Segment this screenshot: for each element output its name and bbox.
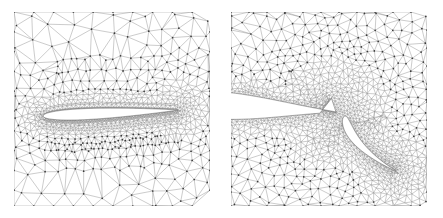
left-panel-airfoil-global-mesh xyxy=(14,12,210,206)
mesh-figure xyxy=(0,0,443,218)
right-panel-flap-closeup-mesh xyxy=(231,12,427,206)
